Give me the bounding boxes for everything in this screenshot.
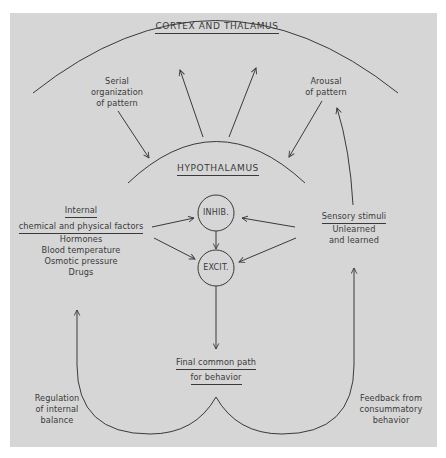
- arrow-arousal-to-hypo: [289, 101, 322, 157]
- feedback-line-2: consummatory: [354, 404, 428, 415]
- arrow-hypo-to-cortex-right: [229, 68, 256, 137]
- internal-factors-label: Internal chemical and physical factors H…: [14, 205, 148, 278]
- internal-item-hormones: Hormones: [14, 234, 148, 245]
- cortex-title-text: CORTEX AND THALAMUS: [155, 21, 278, 34]
- arousal-line-1: Arousal: [298, 76, 354, 87]
- cortex-title: CORTEX AND THALAMUS: [150, 21, 284, 34]
- hypothalamus-title: HYPOTHALAMUS: [166, 163, 270, 176]
- arrow-hypo-to-cortex-left: [180, 70, 203, 137]
- arrow-internal-to-inhib: [152, 218, 194, 227]
- arrow-sensory-to-arousal: [337, 108, 353, 205]
- regulation-line-2: of internal: [28, 404, 86, 415]
- internal-item-drugs: Drugs: [14, 267, 148, 278]
- final-path-line-2: for behavior: [191, 372, 242, 385]
- sensory-item-learned: and learned: [314, 235, 394, 246]
- internal-item-osmotic-pressure: Osmotic pressure: [14, 256, 148, 267]
- regulation-label: Regulation of internal balance: [28, 393, 86, 426]
- arousal-line-2: of pattern: [298, 87, 354, 98]
- final-path-line-1: Final common path: [176, 357, 256, 370]
- regulation-line-3: balance: [28, 415, 86, 426]
- serial-line-2: organization: [82, 87, 152, 98]
- inhib-node-label: INHIB.: [198, 208, 234, 218]
- internal-title-2: chemical and physical factors: [19, 221, 144, 234]
- serial-line-1: Serial: [82, 76, 152, 87]
- internal-title-1: Internal: [65, 205, 97, 218]
- regulation-line-1: Regulation: [28, 393, 86, 404]
- sensory-item-unlearned: Unlearned: [314, 224, 394, 235]
- arrow-internal-to-excit: [154, 238, 195, 259]
- excit-node-label: EXCIT.: [198, 263, 234, 273]
- loop-feedback: [216, 268, 354, 434]
- sensory-stimuli-label: Sensory stimuli Unlearned and learned: [314, 211, 394, 246]
- feedback-line-3: behavior: [354, 415, 428, 426]
- feedback-label: Feedback from consummatory behavior: [354, 393, 428, 426]
- final-common-path-label: Final common path for behavior: [166, 357, 266, 385]
- arrow-sensory-to-inhib: [242, 218, 295, 227]
- arousal-label: Arousal of pattern: [298, 76, 354, 98]
- arrow-sensory-to-excit: [239, 238, 296, 262]
- internal-item-blood-temperature: Blood temperature: [14, 245, 148, 256]
- serial-line-3: of pattern: [82, 98, 152, 109]
- sensory-title: Sensory stimuli: [322, 211, 386, 224]
- serial-organization-label: Serial organization of pattern: [82, 76, 152, 109]
- feedback-line-1: Feedback from: [354, 393, 428, 404]
- hypothalamus-title-text: HYPOTHALAMUS: [177, 163, 259, 176]
- arrow-serial-to-hypo: [118, 111, 149, 158]
